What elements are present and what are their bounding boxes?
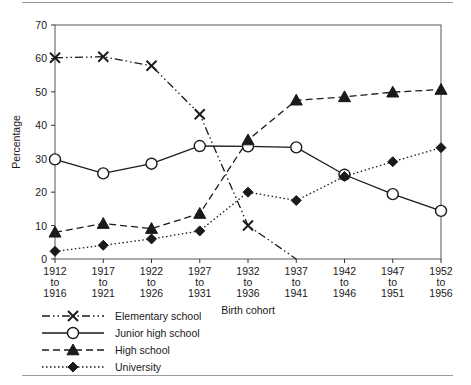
series-line [55, 90, 441, 233]
y-axis-tick-label: 0 [41, 253, 47, 265]
data-point-marker [387, 189, 398, 200]
data-point-marker [147, 234, 157, 244]
y-axis-tick-label: 40 [35, 119, 47, 131]
bottom-divider [22, 375, 453, 376]
legend-item[interactable]: High school [42, 344, 170, 356]
legend-item-label: High school [115, 344, 170, 356]
data-point-marker [291, 196, 301, 206]
x-axis-tick-label: 1931 [188, 287, 212, 299]
y-axis-tick-label: 50 [35, 86, 47, 98]
line-chart: 010203040506070Percentage1912to19161917t… [0, 0, 471, 385]
top-divider [22, 2, 453, 3]
y-axis-title: Percentage [10, 115, 22, 169]
legend-item[interactable]: University [42, 361, 162, 373]
x-axis-tick-label: 1946 [333, 287, 357, 299]
chart-legend: Elementary schoolJunior high schoolHigh … [42, 310, 201, 373]
data-point-marker [291, 142, 302, 153]
data-point-marker [50, 154, 61, 165]
x-axis-title: Birth cohort [221, 304, 275, 316]
data-point-marker [339, 91, 351, 102]
data-point-marker [194, 141, 205, 152]
series-university [50, 143, 446, 257]
x-axis-tick-label: 1921 [92, 287, 116, 299]
data-point-marker [388, 157, 398, 167]
y-axis-tick-label: 10 [35, 220, 47, 232]
series-line [55, 146, 441, 211]
series-junior-high-school [50, 141, 447, 217]
data-point-marker [436, 205, 447, 216]
legend-item-label: University [115, 361, 162, 373]
data-point-marker [436, 143, 446, 153]
y-axis-tick-label: 60 [35, 52, 47, 64]
data-point-marker [195, 226, 205, 236]
legend-item-label: Elementary school [115, 310, 201, 322]
x-axis-tick-label: 1936 [236, 287, 260, 299]
data-point-marker [68, 328, 79, 339]
data-point-marker [146, 158, 157, 169]
data-point-marker [97, 218, 109, 229]
data-point-marker [194, 208, 206, 219]
data-point-marker [68, 362, 78, 372]
data-point-marker [242, 134, 254, 145]
y-axis-tick-label: 20 [35, 186, 47, 198]
data-point-marker [50, 246, 60, 256]
y-axis-tick-label: 70 [35, 19, 47, 31]
legend-item[interactable]: Elementary school [42, 310, 201, 322]
x-axis-tick-label: 1951 [381, 287, 405, 299]
series-line [55, 148, 441, 252]
x-axis-tick-label: 1956 [429, 287, 453, 299]
series-line [55, 57, 296, 259]
data-point-marker [435, 84, 447, 95]
chart-figure: 010203040506070Percentage1912to19161917t… [0, 0, 471, 385]
x-axis-tick-label: 1916 [43, 287, 67, 299]
legend-item[interactable]: Junior high school [42, 327, 200, 339]
series-high-school [49, 84, 447, 238]
data-point-marker [243, 187, 253, 197]
data-point-marker [98, 240, 108, 250]
legend-item-label: Junior high school [115, 327, 200, 339]
data-point-marker [98, 168, 109, 179]
x-axis-tick-label: 1941 [285, 287, 309, 299]
y-axis-tick-label: 30 [35, 153, 47, 165]
x-axis-tick-label: 1926 [140, 287, 164, 299]
